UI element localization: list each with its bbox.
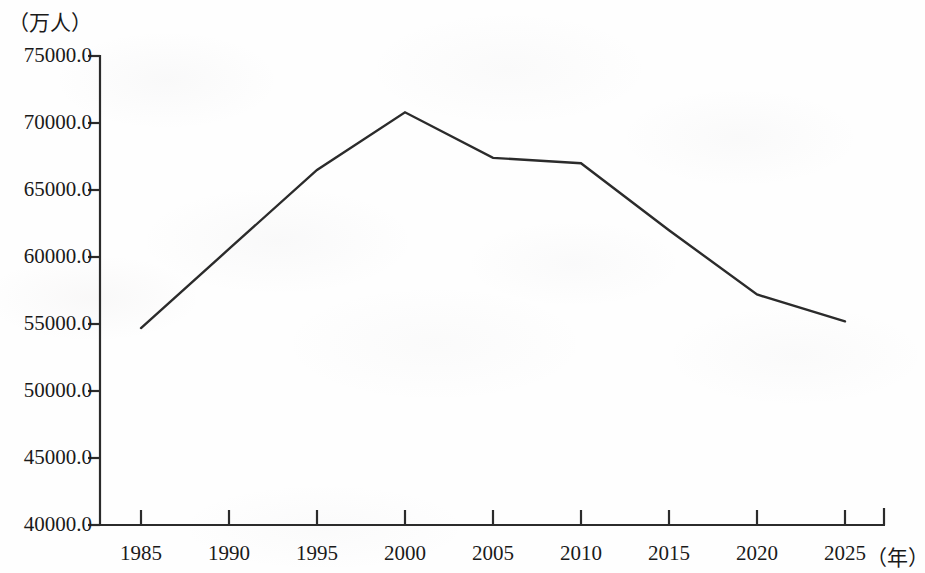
y-axis-tick-label: 75000.0 [0,45,92,66]
x-axis-tick-label: 2000 [365,543,445,564]
x-axis-tick-label: 1990 [189,543,269,564]
x-axis-tick-label: 2005 [453,543,533,564]
chart-figure: （万人） （年） [0,0,925,573]
chart-canvas [0,0,925,573]
x-axis-tick-label: 1985 [101,543,181,564]
y-axis-tick-label: 60000.0 [0,246,92,267]
x-axis-tick-label: 2020 [717,543,797,564]
y-axis-tick-label: 70000.0 [0,112,92,133]
y-axis-tick-label: 65000.0 [0,179,92,200]
x-axis-tick-label: 2015 [629,543,709,564]
x-axis-tick-label: 2010 [541,543,621,564]
x-axis-tick-label: 2025 [805,543,885,564]
x-axis-tick-label: 1995 [277,543,357,564]
y-axis-tick-label: 45000.0 [0,447,92,468]
y-axis-tick-label: 55000.0 [0,313,92,334]
y-axis-tick-label: 40000.0 [0,514,92,535]
x-axis-ticks [141,510,845,525]
population-trend-line [141,112,845,328]
y-axis-tick-label: 50000.0 [0,380,92,401]
